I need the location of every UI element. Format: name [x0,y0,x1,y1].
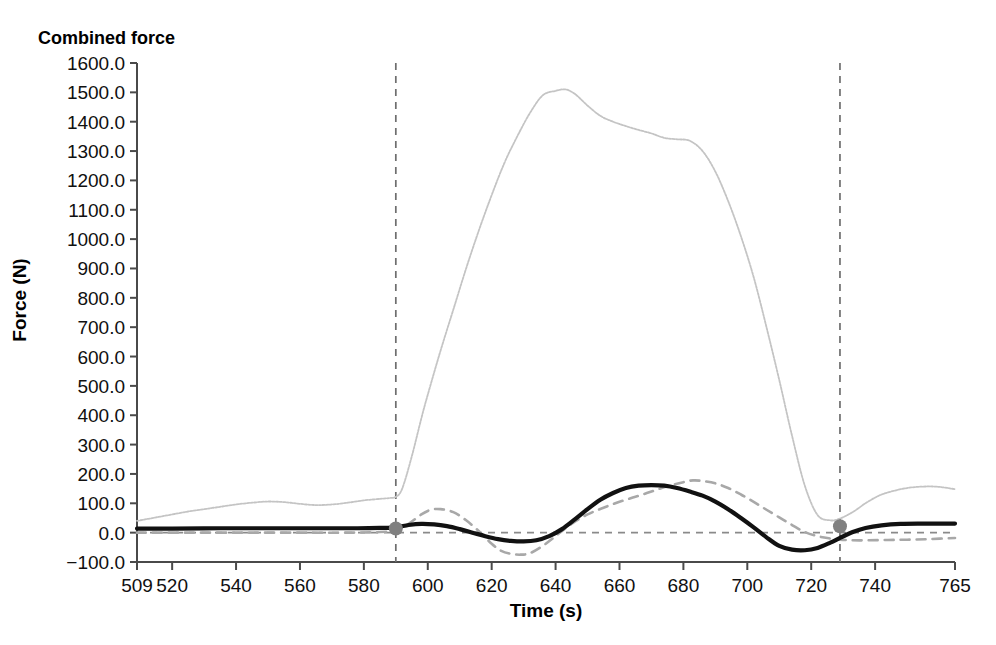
y-tick-label: 400.0 [77,405,125,426]
y-tick-label: 1500.0 [67,82,125,103]
y-tick-label: 500.0 [77,376,125,397]
y-tick-label: 1300.0 [67,141,125,162]
series-light-gray-peak-curve [137,89,955,521]
chart-title: Combined force [38,28,175,48]
x-axis-title: Time (s) [510,600,583,621]
x-tick-label: 700 [731,575,763,596]
x-tick-label: 509 [121,575,153,596]
y-tick-label: 800.0 [77,288,125,309]
data-series [137,89,955,554]
y-axis: −100.00.0100.0200.0300.0400.0500.0600.07… [66,53,137,573]
y-axis-title: Force (N) [9,258,30,341]
x-tick-label: 560 [284,575,316,596]
x-tick-label: 720 [795,575,827,596]
y-tick-label: 700.0 [77,317,125,338]
combined-force-chart: Combined force Force (N) Time (s) −100.0… [0,0,996,645]
x-tick-label: 740 [859,575,891,596]
y-tick-label: 1000.0 [67,229,125,250]
x-tick-label: 660 [604,575,636,596]
marker-start [389,522,403,536]
y-tick-label: −100.0 [66,552,125,573]
y-tick-label: 200.0 [77,464,125,485]
chart-container: Combined force Force (N) Time (s) −100.0… [0,0,996,645]
x-tick-label: 600 [412,575,444,596]
y-tick-label: 1400.0 [67,112,125,133]
y-tick-label: 600.0 [77,347,125,368]
series-black-solid-curve [137,485,955,550]
y-tick-label: 100.0 [77,493,125,514]
y-tick-label: 0.0 [99,523,125,544]
x-tick-label: 680 [668,575,700,596]
y-tick-label: 1200.0 [67,170,125,191]
y-tick-label: 300.0 [77,435,125,456]
reference-lines [137,63,955,562]
y-tick-label: 900.0 [77,258,125,279]
x-tick-label: 765 [939,575,971,596]
x-axis: 5095205405605806006206406606807007207407… [121,562,971,596]
x-tick-label: 640 [540,575,572,596]
marker-end [833,519,847,533]
x-tick-label: 520 [156,575,188,596]
y-tick-label: 1600.0 [67,53,125,74]
x-tick-label: 620 [476,575,508,596]
x-tick-label: 580 [348,575,380,596]
x-tick-label: 540 [220,575,252,596]
y-tick-label: 1100.0 [68,200,125,221]
